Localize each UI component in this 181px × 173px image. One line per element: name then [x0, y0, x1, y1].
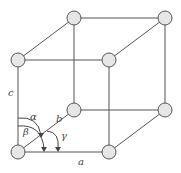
- label-a: a: [78, 156, 84, 167]
- atom-front-top-left: [11, 53, 25, 67]
- edge-top-left-depth: [18, 18, 74, 60]
- atoms: [11, 11, 172, 159]
- beta-arrow-icon: [41, 147, 47, 152]
- atom-front-bottom-right: [102, 145, 116, 159]
- edge-top-right-depth: [109, 18, 165, 60]
- atom-back-bottom-right: [158, 103, 172, 117]
- atom-front-bottom-left: [11, 145, 25, 159]
- gamma-arc: [47, 131, 58, 149]
- edge-bottom-right-depth: [109, 110, 165, 152]
- label-b: b: [56, 113, 62, 124]
- atom-front-top-right: [102, 53, 116, 67]
- atom-back-top-left: [67, 11, 81, 25]
- gamma-arrow-icon: [55, 147, 61, 152]
- label-alpha: α: [30, 111, 37, 122]
- label-beta: β: [22, 126, 29, 137]
- atom-back-top-right: [158, 11, 172, 25]
- unit-cell-diagram: c α b β γ a: [0, 0, 181, 173]
- label-c: c: [8, 87, 14, 98]
- beta-arc: [18, 126, 44, 149]
- atom-back-bottom-left: [67, 103, 81, 117]
- label-gamma: γ: [61, 130, 67, 141]
